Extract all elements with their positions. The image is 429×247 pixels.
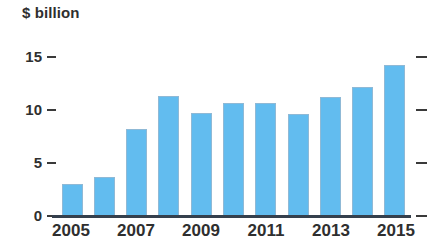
x-axis-label-2011: 2011 [248, 221, 285, 241]
y-axis-tick-label-15: 15 [25, 49, 42, 64]
y-axis-tick-label-0: 0 [34, 208, 42, 223]
x-axis-label-2013: 2013 [312, 221, 350, 241]
y-axis-tick-dash-10 [47, 109, 56, 111]
x-axis-label-2009: 2009 [182, 221, 220, 241]
bar-2005 [62, 184, 83, 216]
x-axis-label-2015: 2015 [377, 221, 415, 241]
y-axis-title: $ billion [22, 4, 80, 21]
bar-2012 [288, 114, 309, 216]
bar-2008 [158, 96, 179, 216]
right-axis-tick-10 [416, 109, 427, 111]
x-axis-label-2007: 2007 [117, 221, 155, 241]
bar-2007 [126, 129, 147, 216]
bar-2011 [255, 103, 276, 216]
y-axis-tick-label-5: 5 [34, 155, 42, 170]
x-axis-baseline [52, 215, 411, 218]
bar-2015 [384, 65, 405, 216]
bar-2009 [191, 113, 212, 216]
y-axis-tick-label-10: 10 [25, 102, 42, 117]
y-axis-tick-dash-5 [47, 162, 56, 164]
bar-2010 [223, 103, 244, 216]
bar-2014 [352, 87, 373, 216]
y-axis-tick-dash-15 [47, 56, 56, 58]
plot-area [56, 57, 411, 216]
x-axis-label-2005: 2005 [52, 221, 90, 241]
right-axis-tick-0 [416, 215, 427, 217]
right-axis-tick-15 [416, 56, 427, 58]
bar-2013 [320, 97, 341, 216]
bar-2006 [94, 177, 115, 216]
bar-chart: $ billion 15 10 5 0 2005 2007 2009 2011 … [0, 0, 429, 247]
right-axis-tick-5 [416, 162, 427, 164]
